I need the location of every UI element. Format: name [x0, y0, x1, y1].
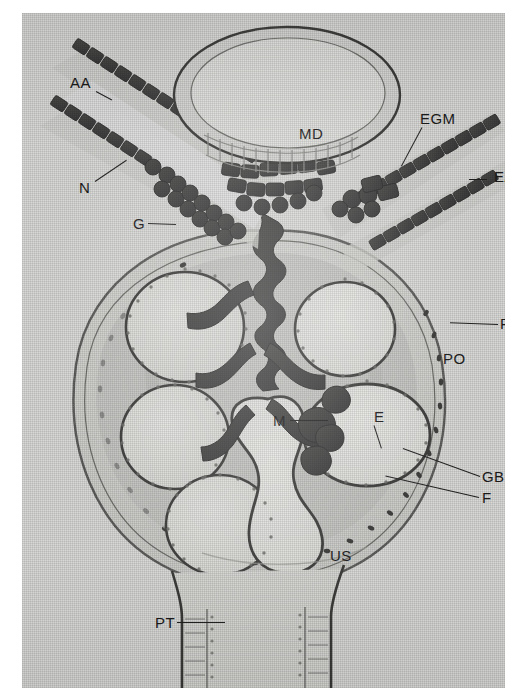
capillary-loop	[295, 282, 395, 376]
macula-densa	[174, 27, 400, 174]
label-pt: PT	[155, 615, 175, 630]
label-f: F	[482, 490, 492, 505]
label-egm: EGM	[420, 111, 455, 126]
label-aa: AA	[70, 75, 91, 90]
label-m: M	[273, 413, 286, 428]
label-md: MD	[299, 126, 323, 141]
label-us: US	[330, 548, 352, 563]
label-e: E	[374, 409, 384, 424]
leader-line-ea	[469, 179, 487, 180]
proximal-tubule	[172, 565, 344, 688]
leader-line-pt	[177, 622, 225, 623]
figure-root: AANGMDEGMEAPEPOMEGBMFUSPT	[0, 0, 521, 696]
label-n: N	[79, 180, 90, 195]
label-g: G	[133, 216, 145, 231]
label-ea: EA	[494, 169, 505, 184]
label-pe: PE	[500, 316, 505, 331]
label-po: PO	[443, 351, 465, 366]
histology-plate: AANGMDEGMEAPEPOMEGBMFUSPT	[22, 13, 505, 688]
leader-line-m	[290, 420, 328, 421]
label-gbm: GBM	[482, 469, 505, 484]
